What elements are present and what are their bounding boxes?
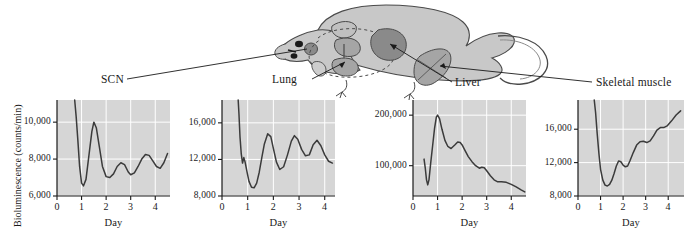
skeletal-muscle-chart-y-tick-label: 8,000 [550,190,572,200]
skeletal-muscle-chart-y-tick-label: 12,000 [545,157,572,167]
skeletal-muscle-chart-y-tick-label: 16,000 [545,123,572,133]
skeletal-muscle-chart-x-tick-label: 2 [613,201,633,212]
skeletal-muscle-chart-x-axis-label: Day [611,217,651,228]
bioluminescence-figure: SCN Lung Liver Skeletal muscle Biolumine… [0,0,689,241]
skeletal-muscle-chart-x-tick-label: 0 [568,201,588,212]
skeletal-muscle-chart-x-tick-label: 3 [636,201,656,212]
skeletal-muscle-chart-x-tick-label: 4 [658,201,678,212]
skeletal-muscle-chart-curve [594,100,680,186]
skeletal-muscle-chart-x-tick-label: 1 [591,201,611,212]
